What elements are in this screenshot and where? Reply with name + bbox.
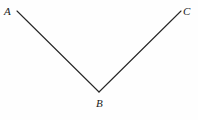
point-label-a: A <box>4 6 11 17</box>
point-label-c: C <box>183 6 190 17</box>
angle-abc-diagram: A B C <box>0 0 198 120</box>
segment-ab-line <box>17 11 99 92</box>
point-label-b: B <box>96 98 103 109</box>
segment-bc-line <box>99 11 181 92</box>
